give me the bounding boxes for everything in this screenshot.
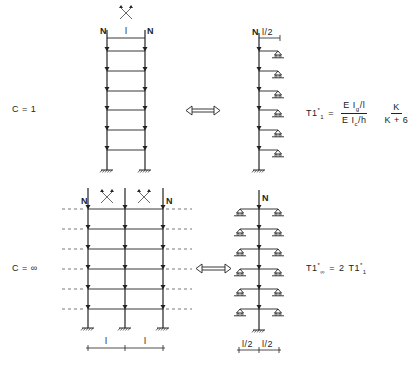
formula-rhs: T1*1	[348, 262, 366, 275]
formula-cinf: T1*∞ = 2 T1*1	[306, 262, 367, 275]
condition-label-cinf: C = ∞	[12, 263, 38, 273]
formula-coefficient: 2	[339, 263, 345, 273]
k-fraction: K K + 6	[383, 102, 411, 125]
span-label-right: l	[144, 336, 147, 346]
formula-equals: =	[329, 263, 335, 273]
bottom-substitute-frame	[234, 190, 284, 353]
equivalence-arrow-icon	[196, 264, 231, 273]
fixed-support-icon	[252, 330, 265, 333]
load-label-left: N	[81, 196, 88, 206]
half-span-label-left: l/2	[242, 339, 253, 349]
load-label-right: N	[166, 196, 173, 206]
sway-cross-icon	[119, 5, 133, 19]
fixed-support-icon	[156, 328, 169, 331]
fixed-support-icon	[252, 170, 265, 173]
formula-lhs: T1*∞	[306, 262, 325, 275]
half-span-label-right: l/2	[262, 339, 273, 349]
fixed-support-icon	[81, 328, 94, 331]
load-label-right: N	[147, 26, 154, 36]
load-label-left: N	[100, 26, 107, 36]
bottom-frame	[62, 188, 192, 351]
substitute-load-label: N	[252, 27, 259, 37]
span-label: l	[125, 26, 128, 36]
sway-cross-icon	[100, 189, 114, 203]
formula-c1: T1*1 = E Ig/l E Ic/h K K + 6	[306, 100, 412, 127]
top-substitute-frame	[252, 33, 284, 173]
load-arrow-icon	[105, 47, 148, 151]
formula-equals: =	[328, 108, 334, 118]
half-span-label: l/2	[262, 27, 273, 37]
span-dimension-line	[86, 345, 165, 351]
fixed-support-icon	[100, 170, 113, 173]
equivalence-arrow-icon	[186, 106, 220, 115]
condition-label-c1: C = 1	[12, 104, 36, 114]
stiffness-ratio-fraction: E Ig/l E Ic/h	[340, 100, 369, 127]
fixed-support-icon	[138, 170, 151, 173]
substitute-load-label: N	[262, 193, 269, 203]
structural-diagram	[0, 0, 418, 368]
sway-cross-icon	[137, 189, 151, 203]
span-label-left: l	[105, 336, 108, 346]
formula-lhs: T1*1	[306, 107, 324, 120]
fixed-support-icon	[118, 328, 131, 331]
roller-support-icon	[272, 51, 284, 157]
continuation-dashes	[62, 209, 192, 309]
